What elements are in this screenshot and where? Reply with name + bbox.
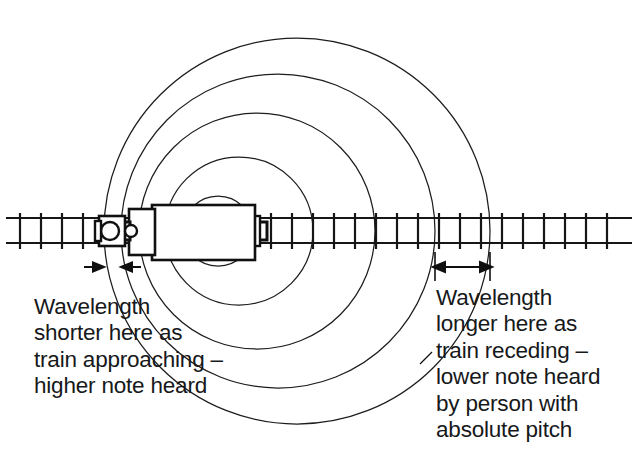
leader-lines xyxy=(420,352,432,364)
train-locomotive xyxy=(95,205,267,260)
caption-left-line-1: Wavelength xyxy=(34,294,223,320)
right-wavelength-measure xyxy=(433,252,492,281)
caption-right-line-3: train receding – xyxy=(436,338,600,364)
caption-right-line-5: by person with xyxy=(436,391,600,417)
train-wheel-rear xyxy=(125,225,137,237)
left-measure-arrowhead-b xyxy=(121,263,132,272)
caption-right-line-1: Wavelength xyxy=(436,285,600,311)
train-boiler-body xyxy=(152,205,255,260)
wavelength-shorter-caption: Wavelength shorter here as train approac… xyxy=(34,294,223,400)
caption-right-line-2: longer here as xyxy=(436,311,600,337)
wavelength-longer-caption: Wavelength longer here as train receding… xyxy=(436,285,600,443)
train-wheel-front xyxy=(101,222,119,240)
caption-left-line-4: higher note heard xyxy=(34,373,223,399)
caption-left-line-3: train approaching – xyxy=(34,347,223,373)
caption-right-line-6: absolute pitch xyxy=(436,417,600,443)
leader-line-right xyxy=(420,352,432,364)
left-measure-arrowhead-a xyxy=(93,263,104,272)
doppler-train-figure: Wavelength shorter here as train approac… xyxy=(0,0,639,462)
caption-right-line-4: lower note heard xyxy=(436,364,600,390)
caption-left-line-2: shorter here as xyxy=(34,320,223,346)
left-wavelength-measure xyxy=(84,263,141,272)
train-front-buffer xyxy=(95,221,101,241)
